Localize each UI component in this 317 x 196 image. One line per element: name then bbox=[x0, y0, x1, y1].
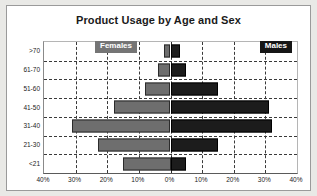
bar-female-51-60[interactable] bbox=[145, 82, 170, 95]
bar-row bbox=[44, 117, 297, 136]
x-tick-5: 10% bbox=[195, 176, 208, 183]
legend-item-males[interactable]: Males bbox=[260, 41, 292, 53]
y-tick-<21: <21 bbox=[8, 159, 40, 166]
y-tick->70: >70 bbox=[8, 47, 40, 54]
bar-row bbox=[44, 61, 297, 80]
bar-male-41-50[interactable] bbox=[171, 101, 269, 114]
bar-male-61-70[interactable] bbox=[171, 64, 187, 77]
bar-male-21-30[interactable] bbox=[171, 138, 218, 151]
bar-male-31-40[interactable] bbox=[171, 120, 272, 133]
x-tick-8: 40% bbox=[289, 176, 302, 183]
chart-title: Product Usage by Age and Sex bbox=[7, 14, 310, 26]
bar-female-21-30[interactable] bbox=[98, 138, 171, 151]
y-tick-41-50: 41-50 bbox=[8, 103, 40, 110]
bar-female-41-50[interactable] bbox=[114, 101, 171, 114]
y-axis-labels: >7061-7051-6041-5031-4021-30<21 bbox=[7, 41, 40, 174]
page-background: Product Usage by Age and Sex >7061-7051-… bbox=[0, 0, 317, 196]
x-tick-1: 30% bbox=[68, 176, 81, 183]
y-tick-31-40: 31-40 bbox=[8, 122, 40, 129]
bar-female-<21[interactable] bbox=[123, 157, 170, 170]
bar-female-61-70[interactable] bbox=[158, 64, 171, 77]
y-tick-61-70: 61-70 bbox=[8, 66, 40, 73]
bar-row bbox=[44, 154, 297, 173]
y-tick-21-30: 21-30 bbox=[8, 140, 40, 147]
plot-area bbox=[43, 41, 298, 174]
bar-female-31-40[interactable] bbox=[72, 120, 170, 133]
y-tick-51-60: 51-60 bbox=[8, 84, 40, 91]
x-tick-6: 20% bbox=[226, 176, 239, 183]
bar-male->70[interactable] bbox=[171, 45, 180, 58]
bar-male-51-60[interactable] bbox=[171, 82, 218, 95]
bar-row bbox=[44, 79, 297, 98]
x-tick-2: 20% bbox=[100, 176, 113, 183]
x-tick-7: 30% bbox=[258, 176, 271, 183]
x-tick-3: 10% bbox=[131, 176, 144, 183]
chart-card: Product Usage by Age and Sex >7061-7051-… bbox=[6, 5, 311, 191]
legend-item-females[interactable]: Females bbox=[95, 41, 137, 53]
x-tick-0: 40% bbox=[36, 176, 49, 183]
x-tick-4: 0% bbox=[165, 176, 174, 183]
bar-male-<21[interactable] bbox=[171, 157, 187, 170]
bar-row bbox=[44, 136, 297, 155]
bar-row bbox=[44, 98, 297, 117]
x-axis-labels: 40%30%20%10%0%10%20%30%40% bbox=[43, 176, 298, 190]
